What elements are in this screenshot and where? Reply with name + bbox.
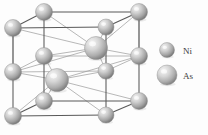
atom-ni-top-front-left	[36, 4, 53, 22]
atom-highlight	[8, 111, 13, 115]
legend-item-as: As	[157, 65, 193, 86]
atom-sphere-ni	[131, 93, 148, 110]
atom-sphere-ni	[5, 108, 22, 125]
atom-sphere-as	[46, 69, 69, 92]
atom-sphere-ni	[131, 4, 148, 21]
atom-ni-bot-back-right	[98, 107, 114, 124]
atom-highlight	[134, 96, 139, 100]
bond-line	[13, 28, 96, 48]
atom-sphere-ni	[5, 20, 22, 37]
atom-sphere-ni	[36, 4, 53, 21]
atom-sphere-ni	[98, 63, 114, 79]
atom-highlight	[39, 51, 44, 55]
atom-ni-mid-back-right	[98, 63, 114, 80]
legend: NiAs	[157, 43, 193, 87]
legend-swatch-ni	[160, 43, 175, 58]
atom-sphere-ni	[98, 19, 114, 35]
atom-highlight	[101, 110, 106, 114]
atom-sphere-ni	[36, 93, 53, 110]
atom-as-lower-center	[46, 69, 69, 93]
atom-sphere-ni	[36, 48, 53, 65]
atom-ni-bot-back-left	[5, 108, 22, 126]
cell-edge-line	[13, 27, 106, 28]
atom-ni-top-front-right	[131, 4, 148, 22]
legend-swatch-as	[157, 65, 177, 85]
atom-highlight	[50, 73, 57, 78]
atom-highlight	[89, 41, 96, 46]
atom-sphere-ni	[98, 107, 114, 123]
legend-label-as: As	[183, 71, 193, 81]
atom-highlight	[39, 7, 44, 11]
atom-highlight	[39, 96, 44, 100]
atom-as-upper-center	[85, 37, 108, 61]
atom-ni-top-back-right	[98, 19, 114, 36]
atom-highlight	[134, 7, 139, 11]
crystal-structure-diagram: NiAs	[0, 0, 208, 135]
figure-root: NiAs	[0, 0, 208, 135]
bond-line	[57, 80, 139, 101]
legend-swatch-highlight	[163, 46, 168, 49]
legend-swatch-highlight	[161, 69, 167, 73]
atom-ni-mid-front-left	[36, 48, 53, 66]
legend-item-ni: Ni	[160, 43, 193, 59]
atom-highlight	[8, 23, 13, 27]
atom-highlight	[101, 66, 106, 70]
atom-ni-bot-front-right	[131, 93, 148, 111]
atom-highlight	[8, 67, 13, 71]
atom-highlight	[101, 22, 106, 26]
atom-ni-bot-front-left	[36, 93, 53, 111]
bond-line	[13, 48, 96, 72]
atom-sphere-as	[85, 37, 108, 60]
atom-sphere-ni	[5, 64, 22, 81]
atom-highlight	[134, 51, 139, 55]
legend-label-ni: Ni	[183, 46, 192, 56]
atom-ni-mid-back-left	[5, 64, 22, 82]
atom-ni-top-back-left	[5, 20, 22, 38]
cell-edge-line	[13, 115, 106, 116]
atom-ni-mid-front-right	[131, 48, 148, 66]
atom-sphere-ni	[131, 48, 148, 65]
